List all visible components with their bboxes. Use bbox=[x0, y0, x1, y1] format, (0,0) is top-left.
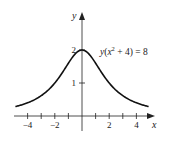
x-tick-label: 4 bbox=[134, 120, 139, 130]
x-tick-label: −2 bbox=[50, 120, 60, 130]
equation-label: y(x2 + 4) = 8 bbox=[99, 45, 148, 58]
x-axis-label: x bbox=[151, 119, 157, 130]
y-axis-arrow-icon bbox=[79, 12, 85, 20]
chart: −4−224 12 x y y(x2 + 4) = 8 bbox=[0, 0, 170, 141]
y-axis-label: y bbox=[71, 10, 77, 21]
y-tick-label: 1 bbox=[72, 78, 77, 88]
x-ticks: −4−224 bbox=[23, 113, 139, 130]
axes bbox=[14, 12, 155, 131]
x-tick-label: −4 bbox=[23, 120, 33, 130]
x-tick-label: 2 bbox=[107, 120, 112, 130]
